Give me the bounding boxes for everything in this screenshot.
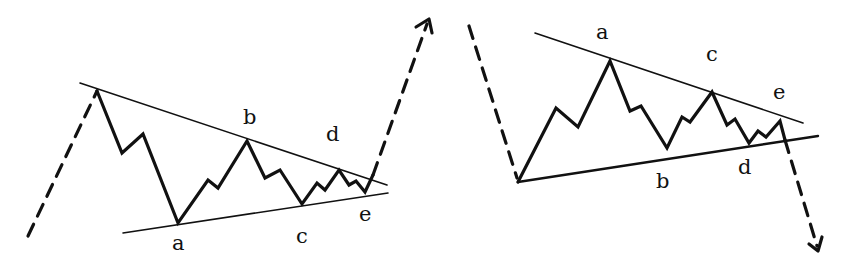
left-label-a: a (172, 231, 185, 255)
left-label-d: d (326, 122, 339, 146)
right-label-d: d (738, 155, 751, 179)
right-label-a: a (596, 20, 609, 44)
left-wave-path (97, 91, 373, 223)
down-arrow-icon (809, 237, 822, 251)
right-breakdown-dashed (785, 140, 817, 246)
right-label-c: c (706, 42, 718, 66)
left-label-b: b (243, 105, 256, 129)
left-prior-trend-dashed (28, 91, 97, 236)
right-upper-trendline (535, 33, 803, 123)
left-lower-trendline (123, 193, 388, 233)
left-upper-trendline (80, 83, 387, 185)
left-label-e: e (359, 202, 371, 226)
right-prior-trend-dashed (469, 26, 517, 178)
triangle-diagram: a b c d e a b c d e (0, 0, 847, 279)
left-triangle: a b c d e (28, 19, 432, 255)
left-breakout-dashed (373, 24, 427, 175)
right-label-e: e (773, 80, 785, 104)
left-label-c: c (296, 224, 308, 248)
right-triangle: a b c d e (469, 20, 822, 251)
right-label-b: b (656, 169, 669, 193)
